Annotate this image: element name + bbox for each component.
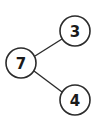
number-bond-diagram: 7 3 4 [0, 0, 105, 127]
whole-value: 7 [16, 55, 26, 73]
part-node-bottom: 4 [60, 85, 90, 115]
edge-whole-to-part-4 [34, 71, 62, 92]
whole-node: 7 [6, 48, 36, 78]
part-node-top: 3 [60, 16, 90, 46]
part-value-bottom: 4 [70, 92, 80, 110]
part-value-top: 3 [70, 23, 80, 41]
edge-whole-to-part-3 [35, 39, 62, 56]
